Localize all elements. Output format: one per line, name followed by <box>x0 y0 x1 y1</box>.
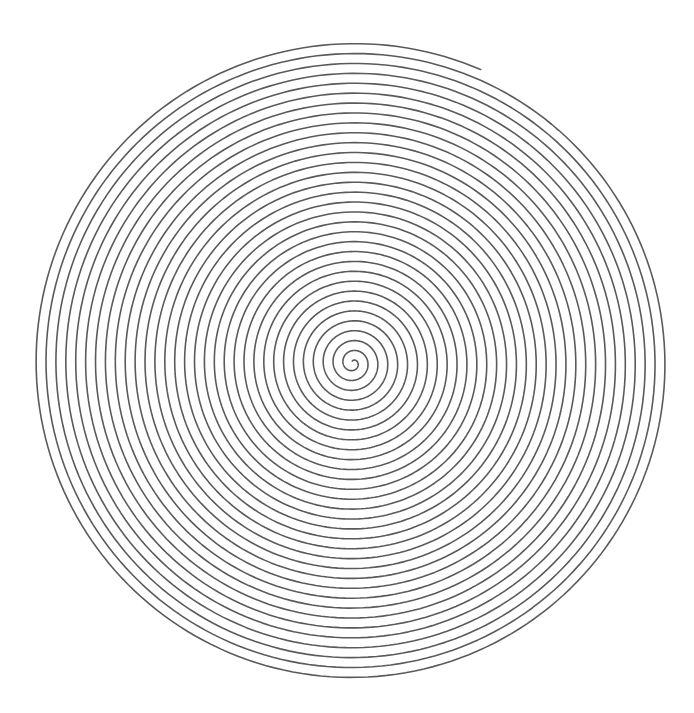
background <box>0 0 694 713</box>
spiral-drawing <box>0 0 694 713</box>
spiral-figure <box>0 0 694 713</box>
